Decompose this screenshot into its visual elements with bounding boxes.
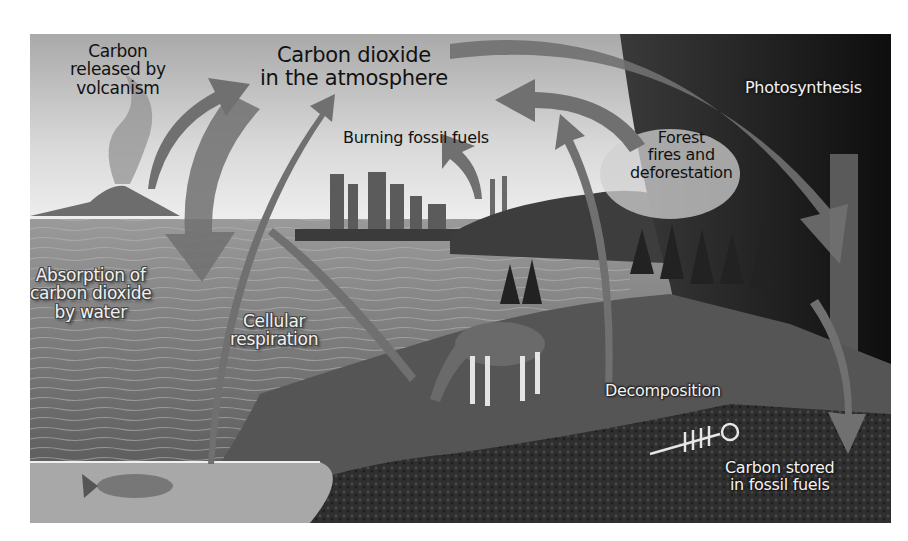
underwater (30, 462, 333, 523)
label-absorption: Absorption of carbon dioxide by water (30, 266, 151, 321)
label-forest-fires: Forest fires and deforestation (630, 129, 733, 181)
scene-illustration (30, 34, 891, 523)
label-decomposition: Decomposition (605, 382, 721, 399)
label-cellular-respiration: Cellular respiration (230, 312, 318, 349)
carbon-cycle-figure: Carbon released by volcanism Carbon diox… (30, 34, 891, 523)
label-volcanism: Carbon released by volcanism (70, 42, 166, 97)
label-carbon-stored: Carbon stored in fossil fuels (725, 459, 834, 494)
label-burning-fossil-fuels: Burning fossil fuels (343, 129, 489, 146)
label-photosynthesis: Photosynthesis (745, 79, 862, 96)
cropped-caption-line (0, 0, 908, 6)
label-atmosphere: Carbon dioxide in the atmosphere (260, 44, 448, 89)
